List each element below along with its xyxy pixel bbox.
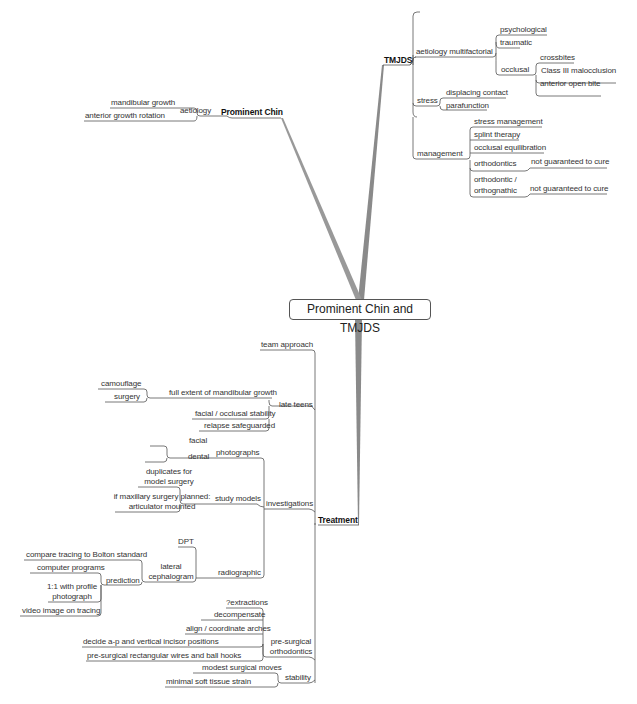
node-psychological[interactable]: psychological — [500, 25, 547, 35]
node-late-teens[interactable]: late teens — [279, 400, 313, 410]
node-full-extent[interactable]: full extent of mandibular growth — [169, 388, 277, 398]
node-pre-surgical-l2[interactable]: orthodontics — [266, 647, 316, 657]
node-extractions[interactable]: ?extractions — [226, 598, 268, 608]
node-facial-occlusal-stability[interactable]: facial / occlusal stability — [195, 409, 275, 419]
node-displacing-contact[interactable]: displacing contact — [446, 88, 508, 98]
node-orthodontics[interactable]: orthodontics — [474, 159, 516, 169]
node-prominent-chin[interactable]: Prominent Chin — [221, 107, 283, 117]
node-management[interactable]: management — [417, 149, 463, 159]
node-video-image[interactable]: video image on tracing — [22, 606, 100, 616]
node-minimal-soft-tissue[interactable]: minimal soft tissue strain — [166, 677, 251, 687]
node-anterior-open-bite[interactable]: anterior open bite — [540, 79, 600, 89]
node-rectangular-wires[interactable]: pre-surgical rectangular wires and ball … — [87, 651, 241, 661]
node-lateral-ceph-l2[interactable]: cephalogram — [144, 572, 198, 582]
node-not-guaranteed-2[interactable]: not guaranteed to cure — [530, 184, 608, 194]
node-dpt[interactable]: DPT — [178, 537, 194, 547]
node-mandibular-growth[interactable]: mandibular growth — [111, 98, 175, 108]
node-splint-therapy[interactable]: splint therapy — [474, 130, 520, 140]
node-duplicates-l2[interactable]: model surgery — [130, 477, 208, 487]
node-stress[interactable]: stress — [417, 96, 438, 106]
node-bolton-standard[interactable]: compare tracing to Bolton standard — [26, 550, 147, 560]
node-occlusal-equilibration[interactable]: occlusal equilibration — [474, 143, 546, 153]
node-aetiology-multifactorial[interactable]: aetiology multifactorial — [416, 47, 493, 57]
node-parafunction[interactable]: parafunction — [446, 101, 489, 111]
node-profile-photo-l2[interactable]: photograph — [42, 592, 102, 602]
node-facial[interactable]: facial — [189, 436, 207, 446]
node-lateral-ceph-l1[interactable]: lateral — [144, 562, 198, 572]
node-decide-incisor[interactable]: decide a-p and vertical incisor position… — [83, 637, 219, 647]
node-treatment[interactable]: Treatment — [318, 515, 358, 525]
node-pre-surgical-l1[interactable]: pre-surgical — [266, 637, 316, 647]
node-if-maxillary-l2[interactable]: articulator mounted — [106, 502, 218, 512]
node-stress-management[interactable]: stress management — [474, 117, 543, 127]
node-surgery[interactable]: surgery — [114, 392, 140, 402]
node-class-iii-malocclusion[interactable]: Class III malocclusion — [541, 66, 616, 76]
node-modest-surgical-moves[interactable]: modest surgical moves — [202, 663, 282, 673]
node-team-approach[interactable]: team approach — [261, 340, 313, 350]
node-duplicates-l1[interactable]: duplicates for — [130, 467, 208, 477]
node-not-guaranteed-1[interactable]: not guaranteed to cure — [531, 157, 609, 167]
node-profile-photo-l1[interactable]: 1:1 with profile — [42, 582, 102, 592]
node-computer-programs[interactable]: computer programs — [37, 563, 105, 573]
node-chin-aetiology[interactable]: aetiology — [180, 106, 211, 116]
node-orthodontic-orthognathic-l1[interactable]: orthodontic / — [474, 175, 517, 185]
node-radiographic[interactable]: radiographic — [218, 568, 261, 578]
node-camouflage[interactable]: camouflage — [101, 379, 141, 389]
node-crossbites[interactable]: crossbites — [540, 53, 575, 63]
node-traumatic[interactable]: traumatic — [500, 38, 532, 48]
root-node[interactable]: Prominent Chin and TMJDS — [289, 299, 431, 320]
node-relapse-safeguarded[interactable]: relapse safeguarded — [204, 421, 275, 431]
mind-map: Prominent Chin and TMJDS TMJDS aetiology… — [0, 0, 637, 704]
node-decompensate[interactable]: decompensate — [214, 610, 265, 620]
node-prediction[interactable]: prediction — [106, 576, 140, 586]
node-align-coordinate[interactable]: align / coordinate arches — [186, 624, 271, 634]
node-dental[interactable]: dental — [188, 452, 209, 462]
node-orthodontic-orthognathic-l2[interactable]: orthognathic — [474, 186, 517, 196]
node-stability[interactable]: stability — [285, 673, 311, 683]
node-tmjds[interactable]: TMJDS — [384, 55, 412, 65]
node-if-maxillary-l1[interactable]: if maxillary surgery planned: — [106, 492, 218, 502]
node-occlusal[interactable]: occlusal — [501, 65, 529, 75]
node-anterior-growth-rotation[interactable]: anterior growth rotation — [85, 111, 165, 121]
node-study-models[interactable]: study models — [215, 494, 261, 504]
node-investigations[interactable]: investigations — [266, 499, 313, 509]
node-photographs[interactable]: photographs — [216, 448, 259, 458]
